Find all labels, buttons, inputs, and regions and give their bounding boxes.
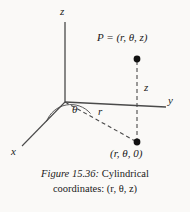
caption-line-2: coordinates: (r, θ, z) [0, 181, 190, 196]
z-axis-label: z [60, 6, 64, 17]
caption-figure-number: Figure 15.36: [41, 168, 99, 179]
point-base-label: (r, θ, 0) [110, 148, 142, 159]
caption-line-1: Figure 15.36: Cylindrical [0, 166, 190, 181]
caption-subject: Cylindrical [102, 168, 149, 179]
point-base-dot [134, 139, 141, 146]
figure-caption: Figure 15.36: Cylindrical coordinates: (… [0, 166, 190, 196]
height-label: z [144, 82, 148, 93]
point-p-label: P = (r, θ, z) [97, 32, 148, 43]
x-axis-label: x [11, 146, 16, 157]
theta-angle-label: θ [72, 104, 77, 115]
radius-label: r [98, 106, 102, 117]
y-axis-label: y [168, 95, 173, 106]
x-axis-line [22, 102, 65, 146]
cylindrical-coordinates-figure: z y x θ r z P = (r, θ, z) (r, θ, 0) Figu… [0, 0, 190, 212]
point-p-dot [134, 56, 141, 63]
